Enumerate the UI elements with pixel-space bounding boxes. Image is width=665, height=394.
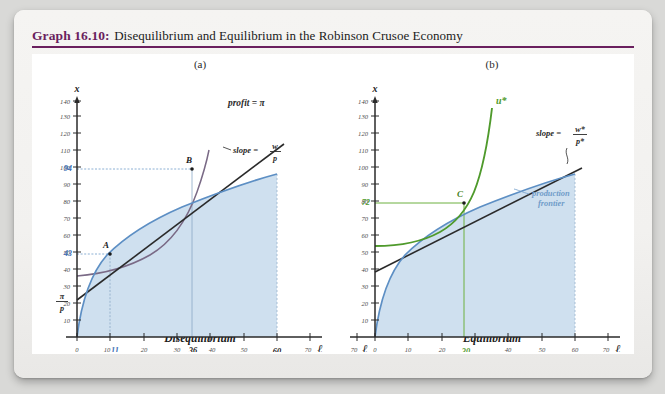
svg-text:40: 40 (361, 266, 368, 273)
svg-text:w*: w* (575, 125, 585, 134)
point-A-marker (108, 252, 112, 256)
point-C-marker (462, 201, 466, 205)
svg-text:50: 50 (539, 346, 546, 352)
x-highlight-36: 36 (188, 346, 198, 352)
graph-number-label: Graph 16.10: (32, 28, 110, 43)
y-ticks-a: 10 20 30 40 50 60 70 80 (60, 98, 81, 324)
y-ticks-b: 10 20 30 40 50 60 70 80 (358, 98, 379, 324)
svg-text:40: 40 (209, 346, 216, 352)
point-C-label: C (457, 189, 464, 199)
y-axis-arrow-a (74, 96, 79, 103)
x-highlight-60: 60 (273, 347, 282, 352)
svg-text:40: 40 (63, 266, 70, 273)
svg-text:0: 0 (373, 346, 377, 352)
svg-text:10: 10 (405, 346, 412, 352)
svg-text:60: 60 (63, 232, 70, 239)
profit-line-label: profit = π (227, 98, 265, 108)
svg-text:90: 90 (63, 181, 70, 188)
svg-text:20: 20 (141, 346, 148, 352)
svg-text:70: 70 (603, 346, 610, 352)
svg-text:slope =: slope = (232, 145, 258, 155)
y-highlight-72: 72 (362, 198, 370, 207)
y-axis-title-a: x (74, 83, 80, 94)
figure-title-bar: Graph 16.10: Disequilibrium and Equilibr… (32, 26, 634, 48)
svg-text:80: 80 (63, 198, 70, 205)
svg-text:140: 140 (358, 98, 369, 105)
panel-b-chart: 10 20 30 40 50 60 70 80 (330, 72, 630, 352)
panel-b-label: (b) (472, 58, 512, 70)
point-B-label: B (185, 155, 192, 165)
card-surface: Graph 16.10: Disequilibrium and Equilibr… (14, 10, 652, 378)
svg-text:40: 40 (505, 346, 512, 352)
panel-a-label: (a) (180, 58, 220, 70)
svg-text:10: 10 (104, 346, 111, 352)
point-A-label: A (102, 240, 109, 250)
svg-text:110: 110 (359, 147, 369, 154)
svg-text:p*: p* (575, 137, 585, 146)
x-highlight-11: 11 (111, 346, 119, 352)
svg-text:70: 70 (361, 215, 368, 222)
x-axis-title-b-left: ℓ (362, 342, 367, 352)
svg-text:slope =: slope = (535, 128, 561, 138)
svg-text:production: production (531, 189, 570, 198)
page-title: Disequilibrium and Equilibrium in the Ro… (114, 28, 463, 43)
svg-text:p: p (272, 154, 277, 163)
svg-text:130: 130 (358, 113, 369, 120)
plot-canvas: (a) (b) Disequilibrium Equilibrium (32, 54, 634, 354)
svg-text:20: 20 (439, 346, 446, 352)
svg-text:130: 130 (60, 113, 71, 120)
page-root: Graph 16.10: Disequilibrium and Equilibr… (0, 0, 665, 394)
point-B-marker (190, 167, 194, 171)
svg-text:π: π (60, 292, 65, 301)
svg-text:50: 50 (361, 249, 368, 256)
svg-text:70: 70 (305, 346, 312, 352)
svg-text:60: 60 (572, 346, 579, 352)
svg-text:70: 70 (351, 346, 358, 352)
svg-text:30: 30 (173, 346, 181, 352)
svg-text:90: 90 (361, 181, 368, 188)
svg-text:60: 60 (361, 232, 368, 239)
svg-text:140: 140 (60, 98, 71, 105)
svg-text:10: 10 (63, 317, 70, 324)
x-axis-title-a: ℓ (317, 342, 322, 352)
y-highlight-43: 43 (63, 249, 72, 258)
svg-text:w: w (272, 142, 278, 151)
svg-text:20: 20 (361, 300, 368, 307)
slope-label-b: slope = w* p* (535, 125, 587, 164)
indifference-curve-label-b: u* (496, 95, 508, 106)
svg-text:p: p (59, 304, 64, 313)
svg-text:20: 20 (63, 300, 70, 307)
x-highlight-30: 30 (461, 347, 471, 352)
svg-text:110: 110 (61, 147, 71, 154)
panel-a-chart: 10 20 30 40 50 60 70 80 (32, 72, 332, 352)
svg-text:120: 120 (60, 130, 71, 137)
svg-text:30: 30 (360, 283, 368, 290)
svg-text:frontier: frontier (538, 199, 565, 208)
y-highlight-94: 94 (64, 164, 72, 173)
svg-text:10: 10 (361, 317, 368, 324)
figure-card: Graph 16.10: Disequilibrium and Equilibr… (14, 10, 652, 378)
svg-text:30: 30 (62, 283, 70, 290)
svg-text:120: 120 (358, 130, 369, 137)
svg-text:50: 50 (241, 346, 248, 352)
svg-text:100: 100 (358, 164, 369, 171)
svg-text:0: 0 (75, 346, 79, 352)
y-axis-arrow-b (372, 96, 377, 103)
y-axis-title-b: x (372, 83, 378, 94)
svg-text:70: 70 (63, 215, 70, 222)
x-axis-title-b: ℓ (615, 342, 620, 352)
